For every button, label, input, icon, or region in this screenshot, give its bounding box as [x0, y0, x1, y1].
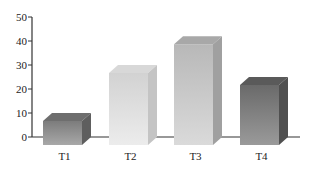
x-tick-label: T3	[189, 150, 202, 162]
y-tick-label: 20	[16, 83, 28, 95]
x-tick-label: T4	[255, 150, 268, 162]
y-tick-label: 40	[16, 35, 28, 47]
x-tick-label: T1	[58, 150, 70, 162]
x-tick-label: T2	[124, 150, 136, 162]
bar-T4	[240, 77, 288, 145]
bar-chart: 01020304050 T1T2T3T4	[0, 0, 314, 171]
y-tick-label: 10	[16, 107, 28, 119]
bar-T3	[174, 36, 222, 145]
bars	[43, 36, 288, 145]
y-tick-label: 50	[16, 11, 28, 23]
bar-T1	[43, 113, 91, 145]
bar-T2	[109, 65, 157, 145]
y-axis: 01020304050	[16, 11, 32, 143]
x-axis-labels: T1T2T3T4	[58, 150, 268, 162]
y-tick-label: 30	[16, 59, 28, 71]
y-tick-label: 0	[22, 131, 28, 143]
